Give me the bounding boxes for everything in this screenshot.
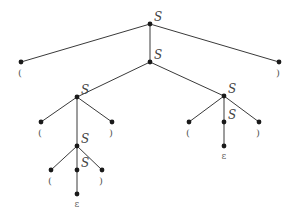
tree-edge (41, 97, 77, 122)
tree-edge (189, 96, 224, 122)
nonterminal-label: S (228, 82, 236, 96)
tree-edge (150, 24, 279, 62)
tree-node-dot (277, 60, 282, 65)
tree-edge (21, 24, 150, 62)
nonterminal-label: S (228, 108, 236, 122)
nonterminal-label: S (81, 156, 89, 170)
terminal-label: ( (18, 67, 22, 78)
tree-node-dot (222, 120, 227, 125)
nonterminal-label: S (81, 83, 89, 97)
tree-node-dot (148, 60, 153, 65)
tree-edge (150, 62, 224, 96)
tree-node-dot (49, 168, 54, 173)
tree-node-dot (148, 22, 153, 27)
tree-node-dot (19, 60, 24, 65)
tree-node-dot (110, 120, 115, 125)
tree-edge (51, 146, 77, 170)
tree-node-dot (222, 144, 227, 149)
tree-node-dot (75, 144, 80, 149)
tree-node-dot (257, 120, 262, 125)
terminal-label: ) (99, 175, 103, 186)
tree-edge (77, 97, 112, 122)
nonterminal-label: S (154, 10, 162, 24)
tree-node-dot (75, 168, 80, 173)
nonterminal-label: S (81, 132, 89, 146)
tree-node-dot (222, 94, 227, 99)
tree-edges (21, 24, 279, 194)
tree-node-dot (100, 168, 105, 173)
tree-node-dot (39, 120, 44, 125)
terminal-label: ( (48, 175, 52, 186)
terminal-label: ) (256, 127, 260, 138)
parse-tree-diagram: S(S)SS()S(S)ε(S)ε (0, 0, 293, 219)
terminal-label: ( (38, 127, 42, 138)
terminal-label: ( (186, 127, 190, 138)
tree-node-dot (187, 120, 192, 125)
nonterminal-label: S (154, 48, 162, 62)
tree-node-dot (75, 95, 80, 100)
epsilon-label: ε (222, 151, 227, 161)
tree-labels: S(S)SS()S(S)ε(S)ε (18, 10, 280, 209)
terminal-label: ) (276, 67, 280, 78)
tree-node-dot (75, 192, 80, 197)
epsilon-label: ε (75, 199, 80, 209)
terminal-label: ) (109, 127, 113, 138)
